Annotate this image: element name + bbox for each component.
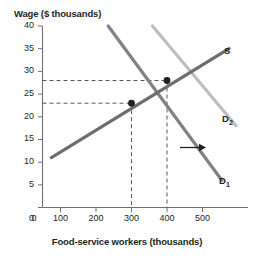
y-tick-label-25: 25: [12, 88, 34, 98]
x-tick-label-0: 0: [19, 213, 49, 223]
x-axis-ticks: [61, 208, 203, 213]
supply-demand-chart: Wage ($ thousands): [0, 0, 254, 261]
demand-curve-d2: [153, 26, 237, 126]
y-tick-label-30: 30: [12, 65, 34, 75]
y-tick-label-35: 35: [12, 43, 34, 53]
demand2-label-text: D: [222, 113, 229, 124]
demand-shift-arrow: [180, 144, 206, 151]
initial-equilibrium-point: [128, 100, 135, 107]
new-equilibrium-point: [164, 77, 171, 84]
demand-curve-d1: [108, 26, 222, 180]
x-tick-label-300: 300: [117, 213, 147, 223]
x-tick-label-400: 400: [152, 213, 182, 223]
supply-curve-label: S: [224, 45, 230, 56]
demand1-label-sub: 1: [226, 181, 230, 188]
y-tick-label-5: 5: [12, 179, 34, 189]
x-axis-title: Food-service workers (thousands): [0, 236, 254, 247]
y-axis-ticks: [38, 26, 43, 208]
x-tick-label-100: 100: [46, 213, 76, 223]
x-tick-label-200: 200: [81, 213, 111, 223]
y-tick-label-15: 15: [12, 133, 34, 143]
demand1-curve-label: D1: [219, 175, 230, 188]
demand1-label-text: D: [219, 175, 226, 186]
demand2-label-sub: 2: [229, 119, 233, 126]
y-tick-label-40: 40: [12, 20, 34, 30]
demand2-curve-label: D2: [222, 113, 233, 126]
y-tick-label-10: 10: [12, 156, 34, 166]
x-tick-label-500: 500: [188, 213, 218, 223]
y-tick-label-20: 20: [12, 111, 34, 121]
